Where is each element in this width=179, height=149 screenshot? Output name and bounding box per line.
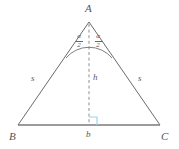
apex-angle-right-numerator: α xyxy=(91,33,105,40)
altitude-label: h xyxy=(93,73,98,82)
triangle-canvas xyxy=(0,0,179,149)
geometry-figure: A B C b s s h α 2 α 2 xyxy=(0,0,179,149)
foot-label-b: b xyxy=(86,130,91,139)
apex-angle-right-denominator: 2 xyxy=(91,42,105,49)
apex-angle-left-fraction: α 2 xyxy=(72,33,86,50)
vertex-label-a: A xyxy=(85,3,92,14)
right-side-label: s xyxy=(138,74,142,83)
left-side-label: s xyxy=(31,74,35,83)
apex-angle-left-numerator: α xyxy=(72,33,86,40)
vertex-label-c: C xyxy=(161,131,168,142)
right-angle-marker-icon xyxy=(89,117,97,125)
apex-angle-left-denominator: 2 xyxy=(72,42,86,49)
apex-angle-right-fraction: α 2 xyxy=(91,33,105,50)
vertex-label-b: B xyxy=(9,131,16,142)
